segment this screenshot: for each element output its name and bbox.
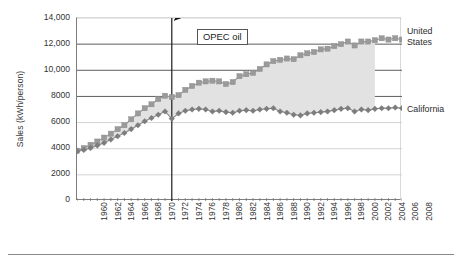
series-label-united-states: United States (407, 26, 432, 47)
x-tick-1984: 1984 (262, 202, 272, 242)
x-tick-1972: 1972 (180, 202, 190, 242)
x-tick-1982: 1982 (248, 202, 258, 242)
y-tick-2000: 2000 (24, 169, 70, 178)
y-tick-0: 0 (24, 195, 70, 204)
chart-figure: Sales (kWh/person) 14,000 12,000 10,000 … (0, 0, 462, 264)
x-tick-1994: 1994 (329, 202, 339, 242)
x-tick-1962: 1962 (113, 202, 123, 242)
x-tick-2006: 2006 (410, 202, 420, 242)
opec-annotation-label: OPEC oil (197, 29, 248, 45)
y-axis-tick-labels: 14,000 12,000 10,000 8000 6000 4000 2000… (24, 0, 70, 264)
x-tick-1974: 1974 (194, 202, 204, 242)
x-tick-1988: 1988 (289, 202, 299, 242)
y-tick-6000: 6000 (24, 117, 70, 126)
x-tick-1966: 1966 (140, 202, 150, 242)
y-tick-12000: 12,000 (24, 39, 70, 48)
x-tick-1976: 1976 (207, 202, 217, 242)
x-tick-1964: 1964 (126, 202, 136, 242)
y-tick-10000: 10,000 (24, 65, 70, 74)
series-label-united-states-line1: United (407, 26, 432, 37)
y-tick-14000: 14,000 (24, 13, 70, 22)
footer-divider (8, 254, 454, 255)
series-label-california: California (407, 104, 444, 115)
x-tick-1996: 1996 (343, 202, 353, 242)
x-tick-2000: 2000 (370, 202, 380, 242)
x-tick-1992: 1992 (316, 202, 326, 242)
y-tick-4000: 4000 (24, 143, 70, 152)
series-label-united-states-line2: States (407, 37, 432, 48)
x-tick-1970: 1970 (167, 202, 177, 242)
y-tick-8000: 8000 (24, 91, 70, 100)
x-tick-1960: 1960 (99, 202, 109, 242)
x-tick-2008: 2008 (424, 202, 434, 242)
x-tick-1968: 1968 (153, 202, 163, 242)
chart-canvas (77, 18, 402, 201)
x-tick-1980: 1980 (234, 202, 244, 242)
x-tick-2004: 2004 (397, 202, 407, 242)
x-tick-1986: 1986 (275, 202, 285, 242)
x-tick-1990: 1990 (302, 202, 312, 242)
x-tick-2002: 2002 (383, 202, 393, 242)
x-tick-1998: 1998 (356, 202, 366, 242)
x-axis-tick-marks (77, 198, 402, 201)
x-tick-1978: 1978 (221, 202, 231, 242)
